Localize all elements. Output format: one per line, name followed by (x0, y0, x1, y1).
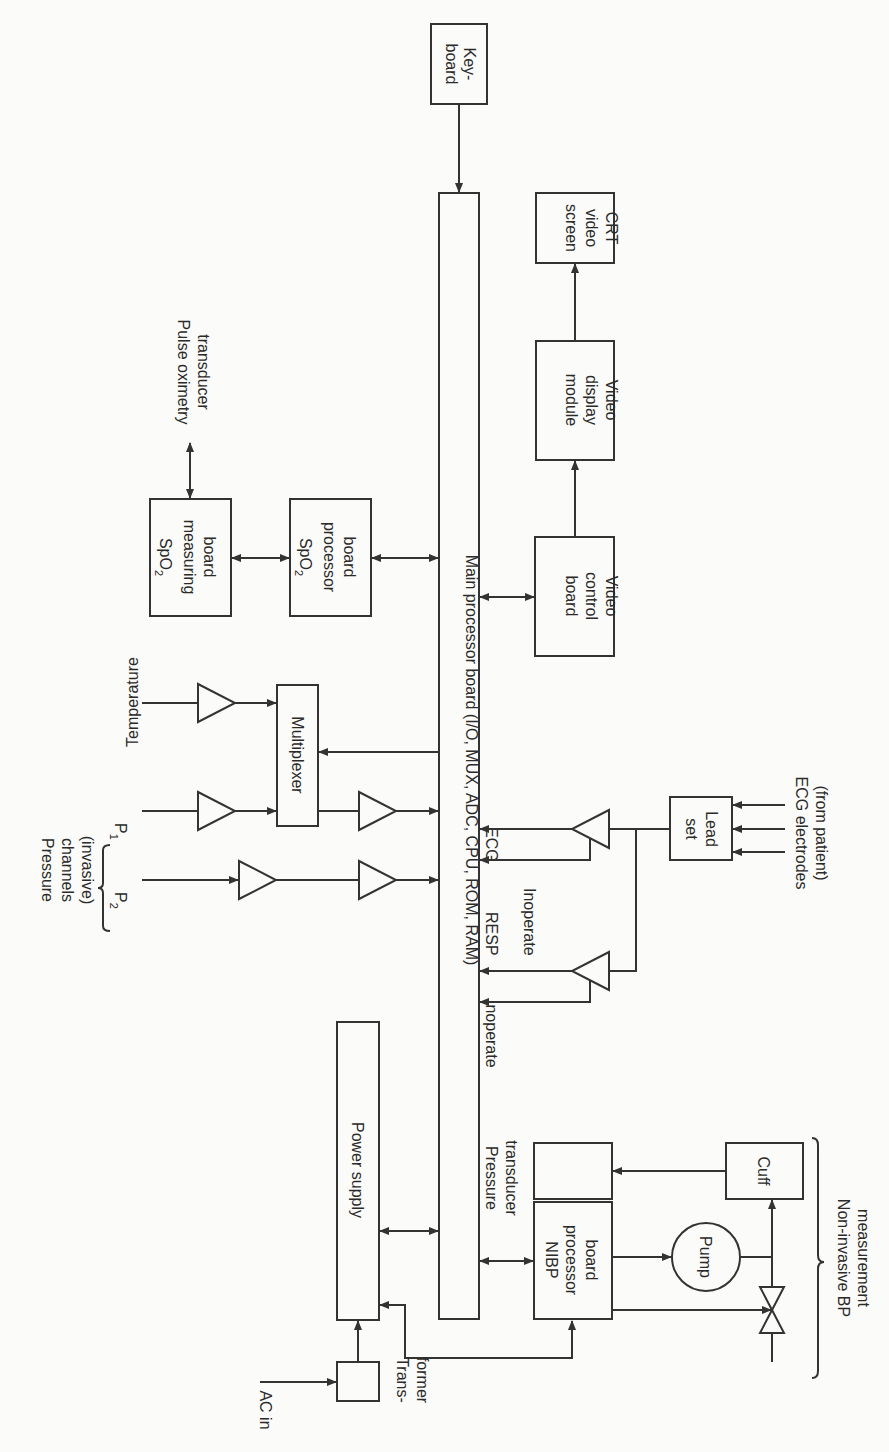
pressure-transducer-label: Pressure transducer (483, 1140, 520, 1216)
nibp-label-line1: NIBP (543, 1241, 560, 1278)
keyboard-block: Key- board (431, 24, 487, 104)
keyboard-label-line1: Key- (461, 48, 478, 81)
spo2-measuring-board-block: SpO2 measuring board (150, 499, 231, 616)
lead-set-block: Lead set (670, 797, 732, 860)
video-display-label-line1: Video (603, 380, 620, 421)
svg-text:SpO2: SpO2 (293, 538, 314, 576)
spo2-processor-label-line3: board (341, 537, 358, 578)
multiplexer-block: Multiplexer (277, 685, 318, 826)
pressure-channels-label: Pressure channels (invasive) (39, 836, 96, 904)
p1-label: P1 (108, 823, 129, 840)
keyboard-label-line2: board (443, 44, 460, 85)
resp-inoperate-arrow (480, 981, 590, 1002)
svg-text:Non-invasive BP: Non-invasive BP (835, 1199, 852, 1317)
temperature-label: Temperature (124, 657, 141, 747)
transformer-label-line1: Trans- (394, 1357, 411, 1403)
svg-text:Pulse oximetry: Pulse oximetry (175, 320, 192, 425)
ecg-label: ECG (483, 827, 500, 862)
lead-set-label-line1: Lead (703, 811, 720, 847)
video-control-label-line1: Video (603, 576, 620, 617)
video-display-module-block: Video display module (536, 341, 620, 460)
svg-text:measurement: measurement (855, 1209, 872, 1307)
power-supply-label: Power supply (349, 1122, 366, 1218)
p2-label: P2 (108, 892, 129, 909)
ac-in-label: AC in (257, 1390, 274, 1429)
svg-text:Pressure: Pressure (39, 838, 56, 902)
crt-label-line3: screen (563, 204, 580, 252)
leadset-to-resp-line (609, 829, 636, 971)
transformer-label-line2: former (414, 1357, 431, 1404)
main-board-label: Main processor board (I/O, MUX, ADC, CPU… (463, 555, 480, 966)
patient-monitor-block-diagram: Key- board Main processor board (I/O, MU… (0, 0, 889, 1452)
pump-label: Pump (697, 1236, 714, 1278)
nibp-processor-board-block: NIBP processor board (534, 1202, 612, 1319)
mux-output-amplifier-icon (359, 792, 396, 830)
svg-text:Pressure: Pressure (483, 1146, 500, 1210)
video-control-label-line2: control (583, 572, 600, 620)
spo2-measuring-label-line3: board (201, 537, 218, 578)
video-display-label-line3: module (563, 374, 580, 427)
power-supply-block: Power supply (337, 1022, 379, 1320)
svg-text:transducer: transducer (195, 334, 212, 410)
nibp-measurement-label: Non-invasive BP measurement (835, 1199, 872, 1317)
lead-set-label-line2: set (683, 818, 700, 840)
pump-block: Pump (672, 1223, 740, 1291)
spo2-measuring-label-line2: measuring (181, 520, 198, 595)
transformer-block: Trans- former (337, 1357, 431, 1404)
pulse-oximetry-transducer-label: Pulse oximetry transducer (175, 320, 212, 425)
main-processor-board: Main processor board (I/O, MUX, ADC, CPU… (439, 193, 480, 1319)
p2-amplifier-2-icon (359, 861, 396, 899)
resp-label: RESP (483, 912, 500, 956)
cuff-label: Cuff (755, 1156, 772, 1186)
spo2-processor-label-line1: SpO (297, 538, 314, 570)
svg-text:transducer: transducer (503, 1140, 520, 1216)
crt-video-screen-block: CRT video screen (536, 193, 620, 263)
nibp-brace (812, 1138, 824, 1378)
video-control-board-block: Video control board (535, 537, 620, 656)
pressure-channels-brace (98, 845, 110, 931)
svg-text:SpO2: SpO2 (153, 538, 174, 576)
svg-text:(invasive): (invasive) (79, 836, 96, 904)
inoperate-resp-label: Inoperate (483, 1000, 500, 1068)
crt-label-line2: video (583, 209, 600, 247)
nibp-label-line3: board (583, 1240, 600, 1281)
svg-text:(from patient): (from patient) (813, 785, 830, 880)
p2-amplifier-1-icon (239, 861, 276, 899)
inoperate-ecg-label: Inoperate (521, 888, 538, 956)
ecg-electrodes-label: ECG electrodes (from patient) (793, 777, 830, 890)
spo2-measuring-label-line1: SpO (157, 538, 174, 570)
spo2-processor-board-block: SpO2 processor board (290, 499, 371, 616)
temperature-amplifier-icon (198, 684, 235, 722)
nibp-to-power-line (380, 1305, 572, 1358)
svg-text:ECG electrodes: ECG electrodes (793, 777, 810, 890)
video-control-label-line3: board (563, 576, 580, 617)
spo2-processor-label-line2: processor (321, 522, 338, 593)
cuff-block: Cuff (726, 1143, 803, 1199)
svg-text:channels: channels (59, 838, 76, 902)
video-display-label-line2: display (583, 375, 600, 425)
pressure-transducer-block (534, 1143, 612, 1199)
crt-label-line1: CRT (603, 212, 620, 245)
p1-amplifier-icon (198, 792, 235, 830)
multiplexer-label: Multiplexer (289, 716, 306, 794)
nibp-label-line2: processor (563, 1225, 580, 1296)
